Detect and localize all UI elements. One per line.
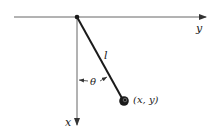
pendulum-diagram: y x l θ (x, y) <box>0 0 218 131</box>
pendulum-rod <box>77 17 123 100</box>
pendulum-bob <box>119 96 129 106</box>
angle-arrow-left <box>79 80 88 81</box>
rod-length-label: l <box>104 49 108 62</box>
bob-position-label: (x, y) <box>133 94 159 105</box>
y-axis-label: y <box>195 22 203 35</box>
x-axis-label: x <box>65 116 72 129</box>
pivot-point <box>75 15 80 20</box>
angle-label: θ <box>90 76 96 87</box>
angle-arrow-right <box>100 77 107 81</box>
